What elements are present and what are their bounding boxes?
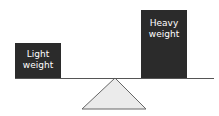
light-label-line1: Light [15, 49, 61, 60]
light-weight-box: Light weight [15, 43, 61, 78]
heavy-label-line1: Heavy [141, 18, 187, 29]
fulcrum-triangle [82, 78, 146, 109]
balance-diagram: Light weight Heavy weight [0, 0, 219, 116]
heavy-weight-box: Heavy weight [141, 10, 187, 78]
heavy-label-line2: weight [141, 29, 187, 40]
light-label-line2: weight [15, 60, 61, 71]
